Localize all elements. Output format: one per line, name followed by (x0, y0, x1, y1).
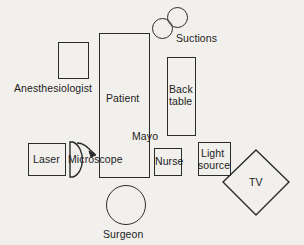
anesthesiologist-label: Anesthesiologist (14, 83, 92, 94)
anesthesiologist-box (58, 42, 89, 79)
microscope-shape-layer (0, 0, 304, 245)
surgeon-label: Surgeon (103, 229, 143, 240)
back-table-label-line1: Back (169, 84, 193, 95)
patient-label: Patient (106, 93, 139, 104)
mayo-label: Mayo (132, 131, 158, 142)
nurse-label: Nurse (155, 156, 184, 167)
back-table-label-line2: table (169, 96, 192, 107)
laser-label: Laser (33, 154, 60, 165)
suctions-label: Suctions (176, 33, 217, 44)
light-source-label-line1: Light (201, 148, 224, 159)
tv-label: TV (249, 177, 263, 188)
operating-room-diagram: Anesthesiologist Patient Suctions Back t… (0, 0, 304, 245)
surgeon-circle (106, 185, 146, 225)
suction-circle-lower (152, 18, 173, 39)
tv-shape-layer (0, 0, 304, 245)
microscope-label: Microscope (68, 154, 123, 165)
light-source-label-line2: source (198, 160, 230, 171)
